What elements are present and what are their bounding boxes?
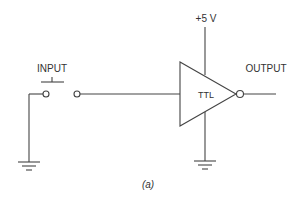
caption: (a) xyxy=(142,179,154,190)
ground-gate xyxy=(194,112,216,169)
gate-label: TTL xyxy=(198,90,214,100)
ground-switch xyxy=(18,94,43,170)
circuit-diagram: INPUT +5 V TTL OUTPUT (a) xyxy=(0,0,298,206)
supply-label: +5 V xyxy=(196,13,217,24)
push-button-switch xyxy=(41,77,80,97)
output-label: OUTPUT xyxy=(245,63,286,74)
input-label: INPUT xyxy=(37,63,67,74)
